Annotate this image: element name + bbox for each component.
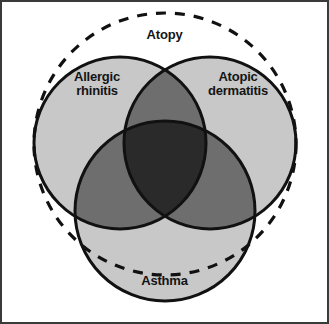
venn-diagram-canvas (2, 2, 327, 322)
figure-frame: Atopy Allergic rhinitis Atopic dermatiti… (0, 0, 329, 324)
